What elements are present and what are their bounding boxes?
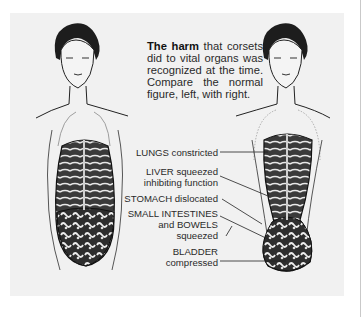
label-lungs: LUNGS constricted (136, 147, 218, 158)
left-figure (36, 23, 128, 270)
label-line: and BOWELS (128, 219, 218, 230)
label-line: SMALL INTESTINES (128, 208, 218, 219)
label-line: LUNGS constricted (136, 147, 218, 158)
label-line: compressed (166, 257, 218, 268)
label-line: inhibiting function (144, 177, 218, 188)
label-stomach: STOMACH dislocated (124, 193, 218, 204)
label-line: BLADDER (166, 246, 218, 257)
label-line: LIVER squeezed (144, 166, 218, 177)
label-line: STOMACH dislocated (124, 193, 218, 204)
label-liver: LIVER squeezed inhibiting function (144, 166, 218, 188)
caption-lead: The harm (147, 40, 199, 52)
label-bladder: BLADDER compressed (166, 246, 218, 268)
label-line: squeezed (128, 230, 218, 241)
label-intestines: SMALL INTESTINES and BOWELS squeezed (128, 208, 218, 241)
caption-text: The harm that corsets did to vital organ… (147, 40, 263, 100)
